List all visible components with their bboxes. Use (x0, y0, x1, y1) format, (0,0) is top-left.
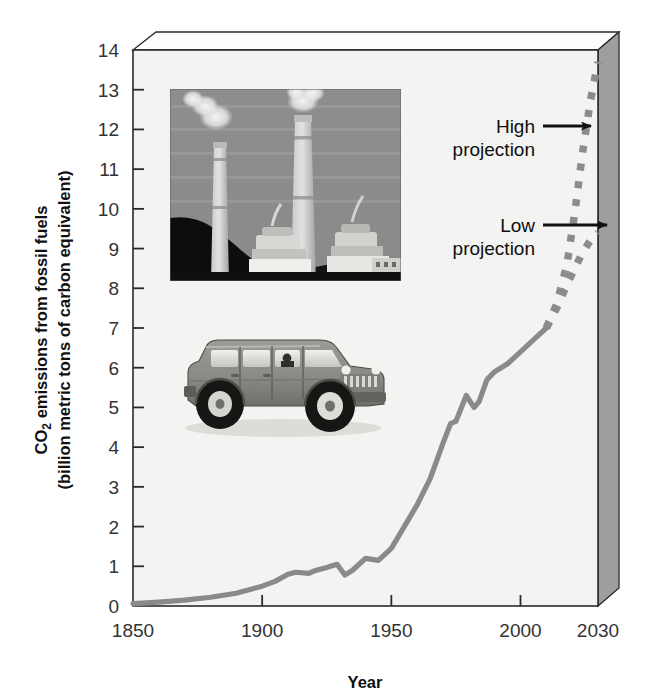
y-tick-label-4: 4 (108, 437, 119, 458)
y-tick-label-9: 9 (108, 239, 119, 260)
chart-canvas: 01234567891011121314 1850190019502000203… (0, 0, 654, 699)
y-tick-label-1: 1 (108, 556, 119, 577)
x-tick-label-2000: 2000 (499, 620, 541, 641)
low-projection-label-line1: Low (500, 215, 535, 236)
high-projection-label-line1: High (496, 116, 535, 137)
x-axis-title: Year (348, 673, 383, 691)
y-tick-label-11: 11 (99, 159, 119, 180)
co2-emissions-figure: 01234567891011121314 1850190019502000203… (0, 0, 654, 699)
y-tick-label-14: 14 (98, 40, 120, 61)
y-axis-title: CO2 emissions from fossil fuels (billion… (32, 170, 73, 489)
y-tick-label-5: 5 (108, 397, 119, 418)
y-axis-title-line2: (billion metric tons of carbon equivalen… (55, 170, 73, 489)
power-plant-photo (170, 84, 401, 281)
y-axis-title-line1-pre: CO (32, 429, 50, 454)
y-tick-label-10: 10 (98, 199, 119, 220)
x-tick-label-1900: 1900 (241, 620, 283, 641)
y-tick-label-6: 6 (108, 358, 119, 379)
y-axis-title-line1-post: emissions from fossil fuels (32, 206, 50, 423)
low-projection-label-line2: projection (453, 238, 535, 259)
y-tick-label-12: 12 (98, 119, 119, 140)
y-tick-label-2: 2 (108, 517, 119, 538)
high-projection-label-line2: projection (453, 139, 535, 160)
x-tick-label-1850: 1850 (112, 620, 154, 641)
y-tick-label-3: 3 (108, 477, 119, 498)
box-right-face (598, 32, 619, 606)
x-axis-tick-labels: 18501900195020002030 (112, 620, 619, 641)
y-tick-label-13: 13 (98, 80, 119, 101)
y-axis-tick-labels: 01234567891011121314 (98, 40, 120, 617)
box-top-face (133, 32, 619, 50)
x-tick-label-1950: 1950 (370, 620, 412, 641)
svg-text:CO2 emissions from fossil fuel: CO2 emissions from fossil fuels (32, 206, 54, 455)
y-tick-label-8: 8 (108, 278, 119, 299)
y-tick-label-0: 0 (108, 596, 119, 617)
y-tick-label-7: 7 (108, 318, 119, 339)
x-tick-label-2030: 2030 (577, 620, 619, 641)
